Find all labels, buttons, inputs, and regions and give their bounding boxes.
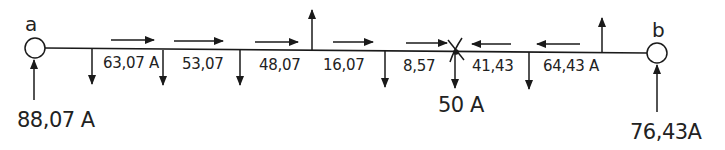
minimum-point-cross-icon (448, 38, 464, 62)
distribution-line-diagram (0, 0, 725, 150)
node-a-circle (25, 38, 45, 58)
segment-current-4: 16,07 (323, 58, 364, 73)
feed-a-current: 88,07 A (17, 110, 95, 131)
segment-current-7: 64,43 A (543, 59, 599, 74)
main-line (45, 48, 647, 53)
node-b-circle (647, 43, 667, 63)
segment-current-5: 8,57 (403, 59, 435, 74)
current-direction-arrows-right (111, 40, 447, 43)
low-point-load-label: 50 A (438, 95, 484, 116)
segment-current-2: 53,07 (182, 57, 223, 72)
node-a-label: a (25, 14, 37, 34)
node-b-label: b (652, 20, 665, 40)
feed-b-current: 76,43A (630, 122, 701, 143)
segment-current-3: 48,07 (259, 58, 300, 73)
segment-current-6: 41,43 (472, 59, 513, 74)
segment-current-1: 63,07 A (103, 56, 159, 71)
